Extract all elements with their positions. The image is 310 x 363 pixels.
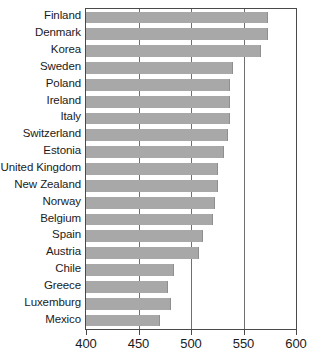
bar-row <box>86 214 296 226</box>
bar-greece <box>86 281 168 293</box>
bar-ireland <box>86 96 230 108</box>
bar-denmark <box>86 28 268 40</box>
bar-row <box>86 113 296 125</box>
bar-luxemburg <box>86 298 171 310</box>
bar-sweden <box>86 62 233 74</box>
category-label-poland: Poland <box>0 78 81 90</box>
category-label-chile: Chile <box>0 263 81 275</box>
bar-austria <box>86 247 199 259</box>
bar-mexico <box>86 315 160 327</box>
category-label-spain: Spain <box>0 229 81 241</box>
category-label-austria: Austria <box>0 246 81 258</box>
category-label-luxemburg: Luxemburg <box>0 297 81 309</box>
bar-row <box>86 62 296 74</box>
bar-row <box>86 45 296 57</box>
bar-switzerland <box>86 129 228 141</box>
tick-label-600: 600 <box>285 336 307 351</box>
bar-row <box>86 264 296 276</box>
category-label-italy: Italy <box>0 111 81 123</box>
bar-norway <box>86 197 215 209</box>
category-axis-labels: FinlandDenmarkKoreaSwedenPolandIrelandIt… <box>0 8 81 330</box>
bar-row <box>86 96 296 108</box>
category-label-new-zealand: New Zealand <box>0 179 81 191</box>
bar-row <box>86 163 296 175</box>
bar-finland <box>86 12 268 24</box>
category-label-ireland: Ireland <box>0 95 81 107</box>
category-label-sweden: Sweden <box>0 61 81 73</box>
bar-row <box>86 146 296 158</box>
bar-united-kingdom <box>86 163 218 175</box>
category-label-finland: Finland <box>0 10 81 22</box>
category-label-switzerland: Switzerland <box>0 128 81 140</box>
tick-label-500: 500 <box>180 336 202 351</box>
bar-rows <box>86 9 296 329</box>
bar-row <box>86 281 296 293</box>
category-label-estonia: Estonia <box>0 145 81 157</box>
bar-row <box>86 315 296 327</box>
bar-poland <box>86 79 230 91</box>
bar-italy <box>86 113 230 125</box>
category-label-denmark: Denmark <box>0 27 81 39</box>
bar-row <box>86 129 296 141</box>
bar-row <box>86 12 296 24</box>
bar-row <box>86 197 296 209</box>
bar-row <box>86 180 296 192</box>
bar-new-zealand <box>86 180 218 192</box>
bar-row <box>86 79 296 91</box>
bar-belgium <box>86 214 213 226</box>
tick-mark-400 <box>86 330 87 335</box>
bar-row <box>86 298 296 310</box>
bar-korea <box>86 45 261 57</box>
category-label-korea: Korea <box>0 44 81 56</box>
bar-estonia <box>86 146 224 158</box>
bar-chart: FinlandDenmarkKoreaSwedenPolandIrelandIt… <box>0 0 310 363</box>
category-label-united-kingdom: United Kingdom <box>0 162 81 174</box>
category-label-belgium: Belgium <box>0 213 81 225</box>
tick-mark-450 <box>139 330 140 335</box>
bar-row <box>86 247 296 259</box>
bar-row <box>86 28 296 40</box>
plot-area <box>85 8 297 330</box>
category-label-greece: Greece <box>0 280 81 292</box>
x-axis-tick-labels: 400450500550600 <box>0 336 310 356</box>
tick-label-550: 550 <box>233 336 255 351</box>
bar-spain <box>86 230 203 242</box>
bar-chile <box>86 264 174 276</box>
bar-row <box>86 230 296 242</box>
tick-label-400: 400 <box>75 336 97 351</box>
tick-mark-550 <box>244 330 245 335</box>
tick-label-450: 450 <box>128 336 150 351</box>
category-label-mexico: Mexico <box>0 314 81 326</box>
tick-mark-500 <box>191 330 192 335</box>
tick-mark-600 <box>296 330 297 335</box>
category-label-norway: Norway <box>0 196 81 208</box>
